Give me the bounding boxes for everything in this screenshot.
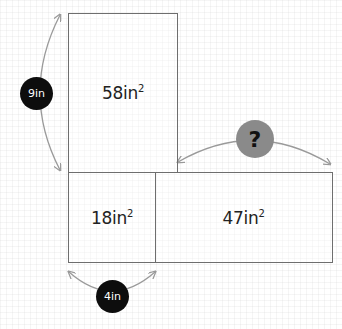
height-badge: 9in — [20, 77, 53, 110]
height-label: 9in — [28, 87, 45, 100]
width-badge: 4in — [96, 280, 129, 313]
top-area-label: 58in2 — [102, 83, 144, 103]
bottom-left-area-label: 18in2 — [91, 208, 133, 228]
top-rectangle: 58in2 — [68, 13, 178, 173]
width-label: 4in — [104, 290, 121, 303]
bottom-right-area-label: 47in2 — [223, 208, 265, 228]
bottom-left-rectangle: 18in2 — [68, 172, 156, 263]
unknown-label: ? — [249, 127, 262, 152]
unknown-badge: ? — [236, 120, 274, 158]
bottom-right-rectangle: 47in2 — [155, 172, 333, 263]
